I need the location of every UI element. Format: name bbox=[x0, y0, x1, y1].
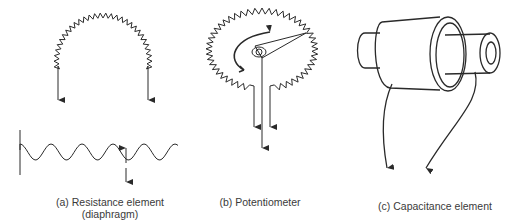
panel-a-resistance-element bbox=[20, 13, 178, 182]
wiper-arm bbox=[255, 33, 306, 58]
lead-wire-left bbox=[383, 84, 392, 168]
caption-resistance-element: (a) Resistance element (diaphragm) bbox=[40, 196, 180, 220]
caption-line-1: (a) Resistance element bbox=[40, 196, 180, 208]
inner-cylinder-bore bbox=[486, 42, 496, 64]
caption-capacitance-element: (c) Capacitance element bbox=[360, 200, 510, 212]
caption-line-1: (c) Capacitance element bbox=[360, 200, 510, 212]
inner-cylinder-face bbox=[480, 33, 500, 73]
panel-c-capacitance-element bbox=[358, 17, 501, 168]
outer-cylinder-inner-rim bbox=[436, 23, 464, 87]
resistive-coil-arc bbox=[54, 13, 152, 69]
caption-potentiometer: (b) Potentiometer bbox=[200, 196, 320, 208]
outer-cylinder-top bbox=[382, 17, 440, 22]
corrugated-diaphragm bbox=[20, 144, 178, 160]
figure-canvas bbox=[0, 0, 515, 223]
caption-line-1: (b) Potentiometer bbox=[200, 196, 320, 208]
panel-b-potentiometer bbox=[206, 8, 318, 148]
caption-line-2: (diaphragm) bbox=[40, 208, 180, 220]
